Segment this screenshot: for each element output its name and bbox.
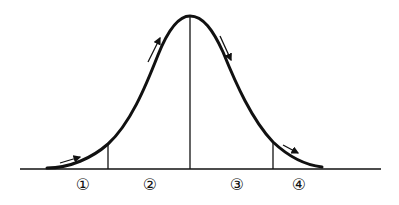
bell-curve-diagram: ① ② ③ ④ [0,0,399,205]
region-label-1: ① [76,175,90,194]
bell-curve [47,16,322,168]
region-label-2: ② [143,175,157,194]
region-label-3: ③ [230,175,244,194]
region-label-4: ④ [292,175,306,194]
